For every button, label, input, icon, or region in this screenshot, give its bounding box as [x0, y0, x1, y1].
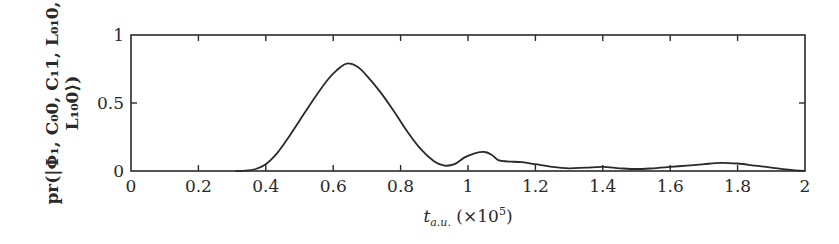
x-axis-title: ta.u. (×105): [423, 205, 512, 229]
x-tick-label: 0.8: [387, 176, 414, 196]
y-tick-label: 0: [113, 161, 124, 181]
y-tick-label: 1: [113, 25, 124, 45]
probability-chart: pr(|Φ₁, C₀0, C₁1, L₀₁0,L₁₀0⟩) 00.20.40.6…: [0, 0, 839, 244]
x-tick-label: 1: [463, 176, 474, 196]
x-tick-label: 2: [800, 176, 811, 196]
y-tick-label: 0.5: [97, 93, 124, 113]
x-axis-ticks: 00.20.40.60.811.21.41.61.82: [126, 35, 811, 196]
x-tick-label: 1.2: [522, 176, 549, 196]
x-tick-label: 0.4: [252, 176, 279, 196]
y-axis-title: pr(|Φ₁, C₀0, C₁1, L₀₁0,L₁₀0⟩): [42, 1, 82, 204]
x-tick-label: 1.6: [657, 176, 684, 196]
x-tick-label: 1.8: [724, 176, 751, 196]
x-tick-label: 0.6: [320, 176, 347, 196]
data-line: [236, 63, 806, 171]
plot-frame: [131, 35, 805, 171]
x-tick-label: 0.2: [185, 176, 212, 196]
y-axis-title-line: L₁₀0⟩): [62, 76, 82, 131]
y-axis-ticks: 00.51: [97, 25, 805, 181]
x-tick-label: 1.4: [589, 176, 616, 196]
x-tick-label: 0: [126, 176, 137, 196]
y-axis-title-line: pr(|Φ₁, C₀0, C₁1, L₀₁0,: [42, 1, 62, 204]
